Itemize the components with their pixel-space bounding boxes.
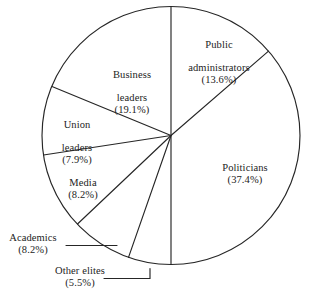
slice-label-media: Media (8.2%) <box>54 165 112 212</box>
slice-label-academics-percent: (8.2%) <box>18 244 47 255</box>
slice-label-union-leaders-percent: (7.9%) <box>46 154 108 166</box>
slice-label-media-percent: (8.2%) <box>54 189 112 201</box>
slice-label-public-administrators-percent: (13.6%) <box>174 74 264 86</box>
slice-label-media-name: Media <box>69 177 96 188</box>
slice-label-public-administrators-line1: Public <box>205 39 232 50</box>
slice-label-business-leaders-line1: Business <box>113 69 151 80</box>
slice-label-politicians-percent: (37.4%) <box>206 174 284 186</box>
slice-label-other-elites: Other elites (5.5%) <box>42 265 118 289</box>
slice-label-politicians-name: Politicians <box>222 162 267 173</box>
slice-label-public-administrators: Public administrators (13.6%) <box>174 27 264 98</box>
slice-divider-academics-otherelites <box>129 136 172 258</box>
slice-label-union-leaders-line2: leaders <box>62 142 92 153</box>
slice-label-academics: Academics (8.2%) <box>2 232 64 256</box>
pie-chart-figure: Politicians (37.4%) Public administrator… <box>0 0 318 301</box>
slice-label-other-elites-name: Other elites <box>55 265 105 276</box>
slice-label-academics-name: Academics <box>9 232 57 243</box>
slice-label-union-leaders-line1: Union <box>64 119 91 130</box>
slice-label-public-administrators-line2: administrators <box>188 62 249 73</box>
slice-label-politicians: Politicians (37.4%) <box>206 150 284 197</box>
slice-label-other-elites-percent: (5.5%) <box>65 277 94 288</box>
slice-label-business-leaders-line2: leaders <box>117 92 147 103</box>
